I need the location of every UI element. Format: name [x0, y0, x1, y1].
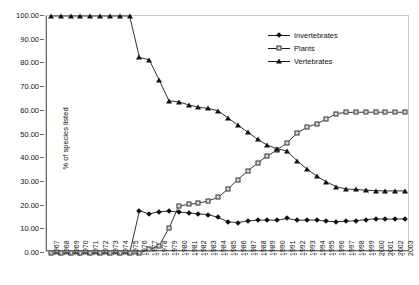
x-axis-tick-mark: [276, 253, 277, 255]
x-axis-tick-labels: 1967196819691970197119721973197419751976…: [45, 253, 409, 285]
x-axis-tick-mark: [247, 253, 248, 255]
x-axis-tick-mark: [138, 253, 139, 255]
y-axis-tick-mark: [40, 181, 44, 182]
series-line-vertebrates: [51, 16, 405, 191]
y-axis-tick-mark: [40, 252, 44, 253]
legend-label: Invertebrates: [294, 31, 338, 40]
x-axis-tick-mark: [237, 253, 238, 255]
series-line-plants: [51, 112, 405, 253]
y-axis-tick-mark: [40, 157, 44, 158]
legend-item-plants[interactable]: Plants: [268, 43, 338, 54]
x-axis-tick-mark: [217, 253, 218, 255]
y-axis-tick-mark: [40, 15, 44, 16]
y-axis-tick-mark: [40, 86, 44, 87]
y-axis-tick: 90.00: [0, 34, 39, 43]
x-axis-tick-mark: [129, 253, 130, 255]
x-axis-tick-mark: [60, 253, 61, 255]
x-axis-tick-mark: [168, 253, 169, 255]
x-axis-tick-mark: [188, 253, 189, 255]
x-axis-tick-mark: [394, 253, 395, 255]
x-axis-tick-mark: [79, 253, 80, 255]
y-axis-tick-mark: [40, 62, 44, 63]
y-axis-tick-mark: [40, 134, 44, 135]
x-axis-tick-mark: [257, 253, 258, 255]
x-axis-tick-mark: [158, 253, 159, 255]
y-axis-tick: 100.00: [0, 11, 39, 20]
legend-marker-icon: [268, 57, 290, 66]
y-axis-tick-mark: [40, 110, 44, 111]
legend-label: Vertebrates: [294, 57, 332, 66]
x-axis-tick-mark: [266, 253, 267, 255]
legend-label: Plants: [294, 44, 315, 53]
x-axis-tick-mark: [384, 253, 385, 255]
x-axis-tick-mark: [365, 253, 366, 255]
x-axis-tick-mark: [286, 253, 287, 255]
y-axis-tick: 40.00: [0, 153, 39, 162]
x-axis-tick-mark: [119, 253, 120, 255]
legend-item-invertebrates[interactable]: Invertebrates: [268, 30, 338, 41]
x-axis-tick-mark: [335, 253, 336, 255]
legend-marker-icon: [268, 44, 290, 53]
x-axis-tick-mark: [325, 253, 326, 255]
y-axis-tick: 30.00: [0, 176, 39, 185]
legend-item-vertebrates[interactable]: Vertebrates: [268, 56, 338, 67]
x-axis-tick-mark: [50, 253, 51, 255]
y-axis-tick: 50.00: [0, 129, 39, 138]
y-axis-tick: 0.00: [0, 248, 39, 257]
x-axis-tick-mark: [89, 253, 90, 255]
y-axis-tick: 60.00: [0, 105, 39, 114]
y-axis-tick-mark: [40, 39, 44, 40]
y-axis-tick: 80.00: [0, 58, 39, 67]
x-axis-tick-mark: [375, 253, 376, 255]
y-axis-tick: 70.00: [0, 82, 39, 91]
x-axis-tick: 2003: [407, 240, 414, 256]
x-axis-tick-mark: [355, 253, 356, 255]
chart-container: 100.0090.0080.0070.0060.0050.0040.0030.0…: [0, 0, 419, 285]
x-axis-tick-mark: [109, 253, 110, 255]
plot-area: % of species listed: [45, 15, 409, 252]
x-axis-tick-mark: [207, 253, 208, 255]
x-axis-tick-mark: [70, 253, 71, 255]
x-axis-tick-mark: [178, 253, 179, 255]
x-axis-tick-mark: [99, 253, 100, 255]
y-axis-tick-mark: [40, 228, 44, 229]
legend-marker-icon: [268, 31, 290, 40]
x-axis-tick-mark: [148, 253, 149, 255]
x-axis-tick-mark: [227, 253, 228, 255]
y-axis-tick-labels: 100.0090.0080.0070.0060.0050.0040.0030.0…: [0, 0, 43, 285]
x-axis-tick-mark: [306, 253, 307, 255]
x-axis-tick-mark: [197, 253, 198, 255]
x-axis-tick-mark: [404, 253, 405, 255]
y-axis-title: % of species listed: [61, 89, 70, 189]
y-axis-tick: 10.00: [0, 224, 39, 233]
x-axis-tick-mark: [296, 253, 297, 255]
x-axis-tick-mark: [316, 253, 317, 255]
series-lines: [46, 16, 410, 253]
y-axis-tick-mark: [40, 205, 44, 206]
x-axis-tick-mark: [345, 253, 346, 255]
y-axis-tick: 20.00: [0, 200, 39, 209]
chart-legend: InvertebratesPlantsVertebrates: [268, 30, 338, 69]
